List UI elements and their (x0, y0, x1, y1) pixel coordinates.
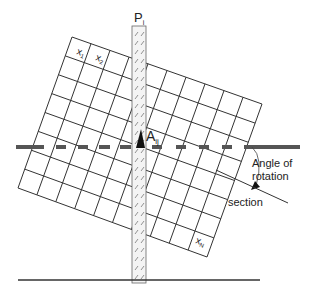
angle-label-line2: rotation (252, 170, 289, 182)
grid-line (188, 97, 243, 250)
grid-line (75, 57, 129, 209)
cell-label-x2: x2 (94, 52, 107, 66)
intersection-label: Aij (146, 128, 159, 146)
angle-label-line1: Angle of (252, 157, 293, 169)
grid-line (150, 84, 205, 236)
cell-label-xN: xN (194, 235, 207, 249)
grid-line (18, 37, 72, 188)
section-label: section (228, 196, 263, 208)
grid-line (169, 91, 224, 244)
grid-line (56, 50, 110, 201)
strip-label: Pi (134, 10, 145, 26)
tomography-grid-diagram: Pi x1 x2 xN Aij Angle of rotation sectio… (0, 0, 314, 295)
grid-line (37, 44, 91, 195)
ray-strip (132, 26, 146, 283)
